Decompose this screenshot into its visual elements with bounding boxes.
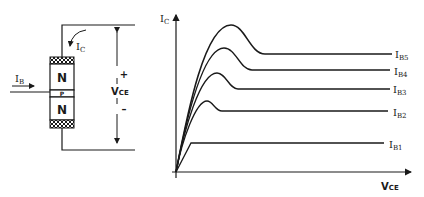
n-upper-label: N: [57, 71, 67, 85]
curve-ib4: [176, 48, 390, 172]
collector-current-label: IC: [76, 41, 85, 54]
emitter-contact-hatch: [50, 120, 74, 128]
plus-sign: +: [120, 69, 128, 80]
characteristic-chart: IC VCE IB5 IB4 IB3 IB2: [160, 13, 411, 192]
curve-ib2: [176, 101, 388, 172]
emitter-wire: [62, 128, 135, 150]
figure-canvas: N P N IB IC + VCE –: [0, 0, 424, 197]
x-axis-label: VCE: [381, 181, 399, 192]
label-ib4: IB4: [394, 66, 408, 79]
collector-contact-hatch: [50, 57, 74, 64]
curve-ib3: [176, 73, 390, 172]
minus-sign: –: [122, 104, 127, 115]
transistor-circuit: N P N IB IC + VCE –: [10, 25, 135, 150]
p-label: P: [60, 90, 65, 97]
label-ib2: IB2: [393, 107, 407, 120]
n-lower-label: N: [57, 103, 67, 117]
curve-ib5: [176, 25, 392, 172]
base-current-label: IB: [15, 73, 24, 86]
transistor-body: N P N: [50, 57, 74, 128]
y-axis-label: IC: [160, 13, 169, 26]
label-ib5: IB5: [395, 49, 409, 62]
collector-wire: [62, 25, 135, 57]
figure-svg: N P N IB IC + VCE –: [0, 0, 424, 197]
label-ib1: IB1: [389, 139, 403, 152]
label-ib3: IB3: [393, 84, 407, 97]
curve-ib1: [176, 143, 384, 172]
